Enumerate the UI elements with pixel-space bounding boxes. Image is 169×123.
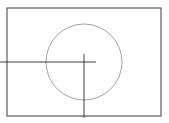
diagram-canvas [0,0,169,123]
